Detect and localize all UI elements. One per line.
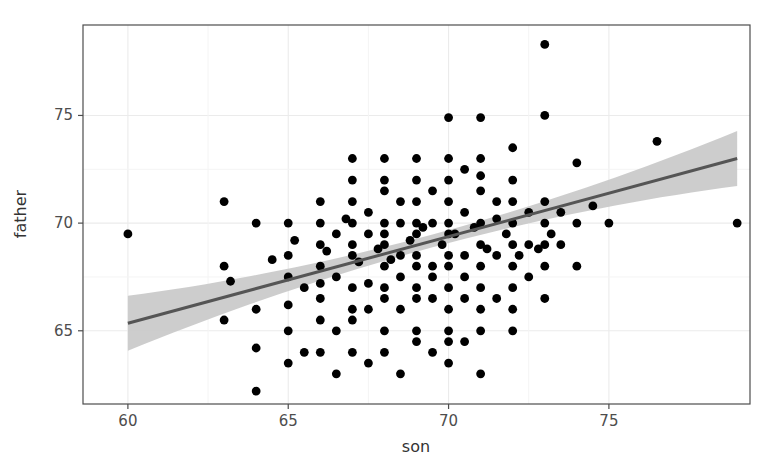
chart-canvas: 60657075 657075 son father <box>0 0 778 464</box>
y-axis-title: father <box>11 189 30 238</box>
scatter-plot-figure: 60657075 657075 son father <box>0 0 778 464</box>
y-tick-label: 75 <box>54 106 73 124</box>
y-tick-label: 65 <box>54 322 73 340</box>
x-tick-label: 65 <box>279 412 298 430</box>
panel-background <box>83 25 750 404</box>
x-tick-label: 75 <box>599 412 618 430</box>
x-axis-title: son <box>402 437 430 456</box>
y-tick-label: 70 <box>54 214 73 232</box>
x-tick-label: 70 <box>439 412 458 430</box>
x-tick-label: 60 <box>118 412 137 430</box>
